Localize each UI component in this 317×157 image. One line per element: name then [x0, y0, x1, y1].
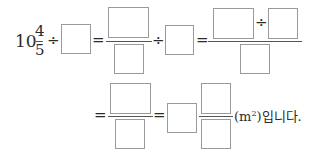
equals-sign: =: [153, 108, 166, 123]
divide-sign: ÷: [255, 15, 268, 30]
fraction3-bar: [108, 116, 153, 117]
answer-box-fraction2-numerator-left[interactable]: [213, 8, 254, 39]
answer-box-result-denominator[interactable]: [201, 119, 231, 149]
unit-open: (m: [234, 109, 251, 124]
fraction2-bar: [208, 41, 302, 42]
answer-box-fraction1-denominator[interactable]: [114, 44, 144, 74]
equals-sign: =: [92, 33, 105, 48]
answer-box-divisor[interactable]: [61, 24, 91, 54]
answer-box-fraction2-denominator[interactable]: [240, 44, 270, 74]
divide-sign: ÷: [47, 33, 60, 48]
answer-box-result-numerator[interactable]: [201, 83, 231, 114]
answer-box-whole-part[interactable]: [167, 103, 197, 133]
fraction1-bar: [106, 41, 152, 42]
answer-box-fraction2-numerator-right[interactable]: [268, 8, 298, 39]
equals-sign: =: [94, 108, 107, 123]
mixed-number-numerator: 4: [35, 24, 45, 39]
mixed-number-denominator: 5: [35, 43, 45, 58]
answer-box-divisor2[interactable]: [165, 25, 194, 55]
answer-box-fraction3-denominator[interactable]: [115, 119, 145, 149]
answer-box-fraction1-numerator[interactable]: [108, 7, 149, 38]
divide-sign: ÷: [152, 33, 165, 48]
result-fraction-bar: [199, 116, 233, 117]
unit-label: (m2)입니다.: [234, 110, 302, 123]
unit-close: )입니다.: [257, 109, 302, 124]
equals-sign: =: [196, 33, 209, 48]
answer-box-fraction3-numerator[interactable]: [110, 83, 151, 114]
